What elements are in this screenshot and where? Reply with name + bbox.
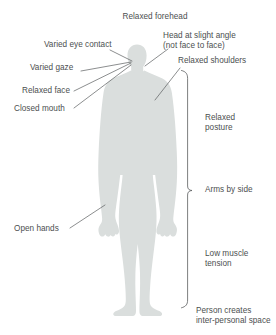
label-arms-by-side: Arms by side — [205, 185, 253, 195]
label-relaxed-forehead: Relaxed forehead — [113, 12, 197, 22]
label-closed-mouth: Closed mouth — [14, 104, 65, 114]
label-head-angle-line2: (not face to face) — [163, 41, 225, 51]
label-relaxed-face: Relaxed face — [22, 86, 70, 96]
label-personal-space-line2: inter-personal space — [196, 316, 271, 326]
right-brace — [182, 71, 193, 308]
leader-head-angle — [145, 49, 168, 66]
leader-open-hands — [70, 205, 105, 228]
label-head-angle-line1: Head at slight angle — [163, 31, 236, 41]
label-low-muscle-line1: Low muscle — [205, 249, 248, 259]
label-relaxed-posture-line1: Relaxed — [205, 113, 235, 123]
label-low-muscle-line2: tension — [205, 259, 232, 269]
leader-relaxed-shoulders — [155, 68, 180, 100]
label-varied-gaze: Varied gaze — [30, 63, 73, 73]
label-varied-eye-contact: Varied eye contact — [44, 40, 112, 50]
leader-lines-layer — [0, 0, 276, 335]
leader-varied-eye-contact — [110, 50, 132, 61]
body-language-diagram: Relaxed forehead Head at slight angle (n… — [0, 0, 276, 335]
label-open-hands: Open hands — [14, 224, 59, 234]
label-personal-space-line1: Person creates — [196, 306, 251, 316]
label-relaxed-posture-line2: posture — [205, 123, 232, 133]
label-relaxed-shoulders: Relaxed shoulders — [178, 56, 246, 66]
